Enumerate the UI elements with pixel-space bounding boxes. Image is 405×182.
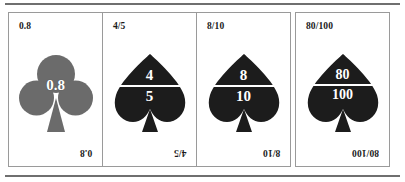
fraction-denominator: 100 <box>331 88 354 102</box>
card-corner-label-top-left: 0.8 <box>19 21 31 31</box>
fraction-bar <box>113 85 187 87</box>
spade-pip: 8 10 <box>207 52 281 132</box>
spade-pip: 80 100 <box>306 52 380 132</box>
card-fraction-4-5[interactable]: 4/5 4 5 4/5 <box>102 12 197 167</box>
fraction-bar <box>207 85 281 87</box>
spade-fraction-value: 80 100 <box>306 68 380 102</box>
fraction-bar <box>306 84 380 86</box>
bottom-divider-rule <box>5 175 400 177</box>
fraction-numerator: 4 <box>145 68 155 83</box>
fraction-denominator: 10 <box>235 89 252 104</box>
spade-pip: 4 5 <box>113 52 187 132</box>
club-pip-value: 0.8 <box>19 78 93 93</box>
card-pip-area: 0.8 <box>9 49 102 135</box>
top-divider-rule <box>5 3 400 5</box>
card-fraction-8-10[interactable]: 8/10 8 10 8/10 <box>196 12 291 167</box>
card-corner-label-top-left: 4/5 <box>113 21 125 31</box>
card-corner-label-bottom-right: 80/100 <box>352 148 379 158</box>
card-decimal[interactable]: 0.8 0.8 0.8 <box>8 12 103 167</box>
playing-card-figure: 0.8 0.8 0.8 4/5 <box>0 0 405 182</box>
card-pip-area: 8 10 <box>197 49 290 135</box>
card-corner-label-top-left: 8/10 <box>207 21 224 31</box>
fraction-numerator: 8 <box>239 68 249 83</box>
card-fraction-80-100[interactable]: 80/100 80 100 80/100 <box>295 12 390 167</box>
card-corner-label-top-left: 80/100 <box>306 21 333 31</box>
spade-fraction-value: 8 10 <box>207 68 281 104</box>
club-pip: 0.8 <box>19 52 93 132</box>
card-pip-area: 80 100 <box>296 49 389 135</box>
fraction-numerator: 80 <box>335 68 351 82</box>
card-corner-label-bottom-right: 4/5 <box>174 148 186 158</box>
spade-fraction-value: 4 5 <box>113 68 187 104</box>
card-corner-label-bottom-right: 0.8 <box>80 148 92 158</box>
fraction-denominator: 5 <box>145 89 155 104</box>
card-corner-label-bottom-right: 8/10 <box>263 148 280 158</box>
card-pip-area: 4 5 <box>103 49 196 135</box>
card-strip: 0.8 0.8 0.8 4/5 <box>8 12 393 167</box>
